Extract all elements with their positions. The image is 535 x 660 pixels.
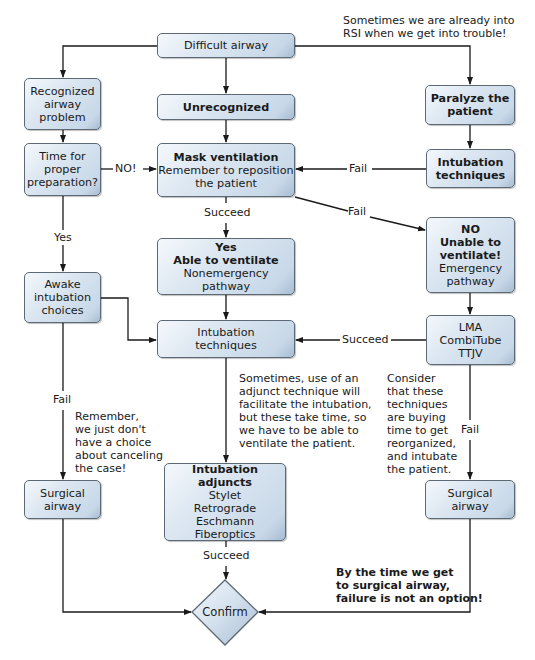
node-label: CombiTube <box>440 334 502 347</box>
node-label: airway <box>44 500 81 513</box>
note-rsi: Sometimes we are already into RSI when w… <box>343 14 514 40</box>
edge-label-succeed-mask: Succeed <box>202 207 253 219</box>
edge-label-fail-lma: Fail <box>459 424 481 436</box>
note-line: ventilate the patient. <box>239 437 372 450</box>
edge-label-no: NO! <box>113 163 138 175</box>
node-label: pathway <box>202 280 250 293</box>
node-label: intubation <box>34 291 91 304</box>
node-intubation-techniques-center: Intubation techniques <box>157 320 295 358</box>
node-label: Emergency <box>439 262 502 275</box>
note-line: time to get <box>387 424 457 437</box>
node-title: Able to ventilate <box>173 254 278 267</box>
node-label: LMA <box>459 321 483 334</box>
node-title: Yes <box>215 241 236 254</box>
node-label: problem <box>39 111 85 124</box>
node-surgical-airway-left: Surgical airway <box>24 480 101 519</box>
node-unrecognized: Unrecognized <box>157 94 295 120</box>
node-title: Mask ventilation <box>174 151 279 164</box>
note-failure: By the time we get to surgical airway, f… <box>336 566 483 605</box>
node-label: the patient <box>195 177 257 190</box>
node-awake-intubation: Awake intubation choices <box>24 272 101 323</box>
node-able-to-ventilate: Yes Able to ventilate Nonemergency pathw… <box>157 238 295 295</box>
node-title: Intubation adjuncts <box>165 463 285 489</box>
node-label: Stylet <box>209 489 242 502</box>
note-line: By the time we get <box>336 566 483 579</box>
node-title: ventilate! <box>440 249 501 262</box>
node-label: Remember to reposition <box>158 164 293 177</box>
note-line: the case! <box>75 462 163 475</box>
note-line: are buying <box>387 411 457 424</box>
note-line: Sometimes we are already into <box>343 14 514 27</box>
node-label: preparation? <box>27 176 98 189</box>
edge-label-yes: Yes <box>52 232 74 244</box>
node-difficult-airway: Difficult airway <box>157 33 295 58</box>
node-recognized-airway-problem: Recognized airway problem <box>24 78 101 130</box>
node-unable-to-ventilate: NO Unable to ventilate! Emergency pathwa… <box>426 217 515 293</box>
edge-label-fail-intubation: Fail <box>347 163 369 175</box>
node-title: Unable to <box>440 236 501 249</box>
node-time-for-preparation: Time for proper preparation? <box>24 143 101 196</box>
node-title: NO <box>461 223 480 236</box>
note-line: that these <box>387 385 457 398</box>
edge-label-fail-mask: Fail <box>346 206 368 218</box>
node-label: Surgical <box>40 487 85 500</box>
note-line: we just don't <box>75 423 163 436</box>
note-remember: Remember, we just don't have a choice ab… <box>75 410 163 475</box>
node-label: Time for <box>39 150 85 163</box>
node-intubation-adjuncts: Intubation adjuncts Stylet Retrograde Es… <box>164 463 286 541</box>
note-line: facilitate the intubation, <box>239 398 372 411</box>
edge-label-succeed-lma: Succeed <box>340 334 391 346</box>
node-label: proper <box>44 163 81 176</box>
node-label: techniques <box>195 339 257 352</box>
note-line: Remember, <box>75 410 163 423</box>
node-label: Intubation <box>438 156 504 169</box>
node-label: Unrecognized <box>183 101 269 114</box>
node-label: patient <box>447 105 493 118</box>
node-lma-combitube-ttjv: LMA CombiTube TTJV <box>426 315 515 365</box>
node-surgical-airway-right: Surgical airway <box>425 480 515 519</box>
node-paralyze-patient: Paralyze the patient <box>425 85 515 125</box>
note-line: but these take time, so <box>239 411 372 424</box>
edge-label-succeed-adjuncts: Succeed <box>201 550 252 562</box>
node-confirm: Confirm <box>195 605 255 619</box>
node-label: TTJV <box>458 347 482 360</box>
node-label: Recognized <box>30 85 94 98</box>
note-adjunct: Sometimes, use of an adjunct technique w… <box>239 372 372 450</box>
note-line: have a choice <box>75 436 163 449</box>
node-label: Eschmann <box>196 515 254 528</box>
note-line: about canceling <box>75 449 163 462</box>
node-label: Awake <box>44 278 80 291</box>
node-label: Surgical <box>448 487 493 500</box>
node-label: airway <box>44 98 81 111</box>
node-label: Fiberoptics <box>195 528 256 541</box>
note-line: we have to be able to <box>239 424 372 437</box>
node-intubation-techniques-right: Intubation techniques <box>426 149 515 188</box>
node-label: Difficult airway <box>184 39 268 52</box>
note-line: Sometimes, use of an <box>239 372 372 385</box>
node-label: Retrograde <box>194 502 256 515</box>
note-line: the patient. <box>387 463 457 476</box>
node-label: airway <box>451 500 488 513</box>
node-label: choices <box>41 304 83 317</box>
note-line: to surgical airway, <box>336 579 483 592</box>
node-label: Intubation <box>197 326 254 339</box>
node-label: Nonemergency <box>183 267 268 280</box>
note-line: adjunct technique will <box>239 385 372 398</box>
note-line: techniques <box>387 398 457 411</box>
note-line: reorganized, <box>387 437 457 450</box>
node-label: techniques <box>436 169 506 182</box>
node-label: Paralyze the <box>431 92 510 105</box>
edge-label-fail-awake: Fail <box>51 394 73 406</box>
note-line: RSI when we get into trouble! <box>343 27 514 40</box>
note-line: failure is not an option! <box>336 592 483 605</box>
node-mask-ventilation: Mask ventilation Remember to reposition … <box>157 143 295 197</box>
note-consider: Consider that these techniques are buyin… <box>387 372 457 476</box>
node-label: pathway <box>446 275 494 288</box>
note-line: Consider <box>387 372 457 385</box>
note-line: and intubate <box>387 450 457 463</box>
